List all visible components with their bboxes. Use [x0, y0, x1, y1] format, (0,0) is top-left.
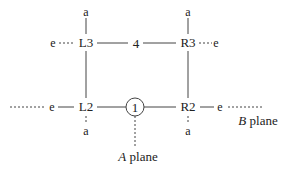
node-L3: L3: [79, 35, 93, 50]
label-e-left-bottom: e: [49, 100, 54, 114]
node-4: 4: [133, 36, 140, 51]
label-a-bottom-right: a: [185, 124, 191, 138]
label-a-bottom-left: a: [83, 124, 89, 138]
a-plane-letter: A: [117, 149, 126, 164]
node-R2: R2: [180, 99, 195, 114]
node-L2: L2: [79, 99, 93, 114]
label-e-right-bottom: e: [217, 100, 222, 114]
node-R3: R3: [180, 35, 195, 50]
label-a-top-left: a: [83, 5, 89, 19]
node-1: 1: [132, 100, 139, 115]
label-e-left-top: e: [50, 36, 55, 50]
plane-network-diagram: a a e L3 4 R3 e e L2 1 R2 e a a A plane …: [0, 0, 289, 176]
label-e-right-top: e: [213, 36, 218, 50]
label-b-plane: B plane: [238, 113, 278, 128]
b-plane-word: plane: [246, 113, 278, 128]
a-plane-word: plane: [126, 149, 158, 164]
b-plane-letter: B: [238, 113, 246, 128]
label-a-plane: A plane: [117, 149, 158, 164]
label-a-top-right: a: [185, 5, 191, 19]
